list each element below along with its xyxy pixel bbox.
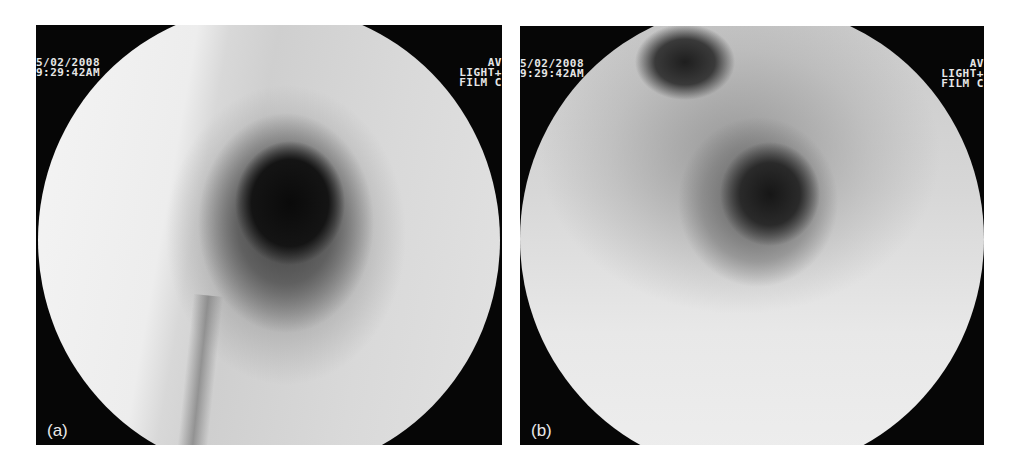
osd-timestamp: 5/02/20089:29:42AM: [36, 58, 100, 78]
endoscope-field-of-view: [520, 26, 984, 445]
osd-settings: AVLIGHT+FILM C: [941, 59, 984, 89]
osd-settings: AVLIGHT+FILM C: [459, 58, 502, 88]
osd-line3: FILM C: [941, 77, 984, 90]
osd-line3: FILM C: [459, 76, 502, 89]
endoscopy-image-a: 5/02/20089:29:42AM AVLIGHT+FILM C (a): [36, 25, 502, 445]
osd-timestamp: 5/02/20089:29:42AM: [520, 59, 584, 79]
endoscope-field-of-view: [38, 25, 500, 445]
panel-label-b: (b): [531, 421, 552, 441]
endoscopy-image-b: 5/02/20089:29:42AM AVLIGHT+FILM C (b): [520, 26, 984, 445]
osd-time: 9:29:42AM: [36, 66, 100, 79]
osd-time: 9:29:42AM: [520, 67, 584, 80]
panel-label-a: (a): [47, 421, 68, 441]
